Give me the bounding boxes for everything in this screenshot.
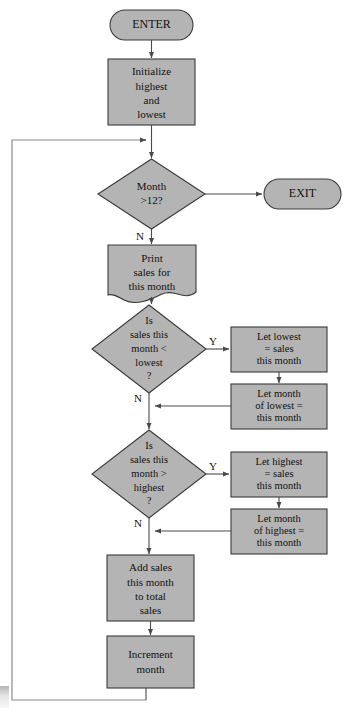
node-initialize: Initialize highest and lowest [108, 59, 195, 125]
node-highest-check-line-4: ? [147, 495, 152, 506]
scan-edge-artifact [0, 686, 9, 708]
node-month-check-line-0: Month [137, 180, 167, 192]
node-add-sales-line-1: this month [127, 576, 174, 588]
node-print-sales-line-2: this month [129, 280, 176, 292]
node-add-sales-line-2: to total [135, 590, 166, 602]
node-increment-month-line-1: month [136, 663, 165, 675]
node-initialize-line-1: highest [136, 80, 168, 92]
node-initialize-line-2: and [144, 94, 160, 106]
branch-label-lowest-check-yes: Y [209, 335, 217, 347]
node-enter-label: ENTER [132, 17, 171, 31]
node-highest-check-line-1: sales this [130, 454, 168, 465]
branch-label-month-check-no: N [136, 230, 144, 242]
node-enter: ENTER [110, 10, 193, 40]
node-increment-month-line-0: Increment [128, 648, 173, 660]
node-month-check-line-1: >12? [140, 194, 162, 206]
node-add-sales-line-3: sales [140, 604, 161, 616]
node-set-month-of-lowest: Let month of lowest = this month [231, 384, 327, 429]
node-set-month-of-highest: Let month of highest = this month [231, 509, 327, 554]
node-lowest-check: Is sales this month < lowest ? [92, 305, 206, 393]
branch-label-highest-check-yes: Y [209, 460, 217, 472]
node-set-highest-line-2: this month [257, 480, 302, 491]
node-set-highest-line-0: Let highest [256, 456, 303, 467]
node-print-sales: Print sales for this month [108, 245, 196, 302]
node-add-sales: Add sales this month to total sales [107, 555, 194, 621]
node-lowest-check-line-3: lowest [135, 357, 162, 368]
node-set-highest-line-1: = sales [265, 468, 294, 479]
node-lowest-check-line-2: month < [131, 343, 166, 354]
node-exit: EXIT [264, 179, 341, 209]
node-print-sales-line-1: sales for [134, 266, 171, 278]
node-initialize-line-3: lowest [137, 108, 166, 120]
node-highest-check-line-0: Is [145, 440, 153, 451]
node-set-highest: Let highest = sales this month [231, 452, 327, 497]
node-print-sales-line-0: Print [141, 252, 162, 264]
node-highest-check-line-3: highest [134, 482, 164, 493]
node-exit-label: EXIT [289, 186, 317, 200]
node-set-month-of-lowest-line-1: of lowest = [255, 400, 302, 411]
node-set-lowest: Let lowest = sales this month [231, 327, 327, 372]
branch-label-lowest-check-no: N [134, 392, 142, 404]
flowchart-canvas: ENTER Initialize highest and lowest Mont… [0, 0, 355, 716]
node-lowest-check-line-0: Is [145, 315, 153, 326]
node-set-lowest-line-1: = sales [265, 343, 294, 354]
node-set-month-of-highest-line-0: Let month [257, 513, 301, 524]
node-month-check: Month >12? [98, 159, 205, 229]
node-highest-check: Is sales this month > highest ? [92, 430, 206, 518]
node-set-month-of-highest-line-1: of highest = [254, 525, 304, 536]
node-set-month-of-highest-line-2: this month [257, 537, 302, 548]
node-initialize-line-0: Initialize [132, 65, 171, 77]
node-set-lowest-line-0: Let lowest [257, 331, 301, 342]
node-set-month-of-lowest-line-0: Let month [257, 388, 301, 399]
node-add-sales-line-0: Add sales [129, 561, 172, 573]
node-set-lowest-line-2: this month [257, 355, 302, 366]
node-lowest-check-line-1: sales this [130, 329, 168, 340]
branch-label-highest-check-no: N [134, 517, 142, 529]
node-highest-check-line-2: month > [131, 468, 166, 479]
node-increment-month: Increment month [107, 636, 194, 688]
node-lowest-check-line-4: ? [147, 370, 152, 381]
node-set-month-of-lowest-line-2: this month [257, 412, 302, 423]
